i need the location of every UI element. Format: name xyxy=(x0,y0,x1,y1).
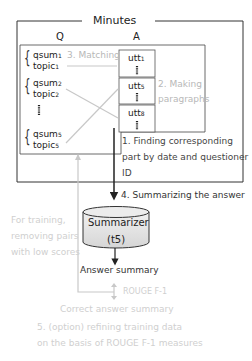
step-finding-line1: 1. Finding corresponding xyxy=(122,137,233,146)
summarizer-model: (t5) xyxy=(107,235,125,245)
answer-summary-label: Answer summary xyxy=(80,266,158,275)
utterance-5-label: utt5 xyxy=(128,82,145,91)
brace-icon: { xyxy=(24,78,30,95)
minutes-title: Minutes xyxy=(93,15,136,26)
rouge-label: ROUGE F-1 xyxy=(123,288,167,296)
training-note-line1: For training, xyxy=(11,216,66,225)
step-making-paragraphs-line2: paragraphs xyxy=(158,95,209,104)
training-note-line2: removing pairs xyxy=(11,232,79,241)
qsum-label: qsum1 xyxy=(33,51,62,60)
qsum-label: qsum5 xyxy=(33,130,62,139)
step-finding-line2: part by date and questioner xyxy=(122,153,248,162)
topic-label: topic5 xyxy=(33,141,59,150)
step-making-paragraphs-line1: 2. Making xyxy=(158,80,202,89)
qsum-label: qsum2 xyxy=(33,79,62,88)
step-matching-label: 3. Matching xyxy=(67,51,120,60)
step-summarizing-label: 4. Summarizing the answer xyxy=(121,191,245,200)
utterance-8-label: utt8 xyxy=(128,109,145,118)
column-a-header: A xyxy=(133,32,140,42)
column-q-header: Q xyxy=(56,32,64,42)
refining-note-line1: 5. (option) refining training data xyxy=(37,323,182,332)
correct-summary-label: Correct answer summary xyxy=(60,305,174,314)
topic-label: topic1 xyxy=(33,62,59,71)
brace-icon: { xyxy=(24,129,30,146)
training-note-line3: with low scores xyxy=(11,248,80,257)
step-finding-line3: ID xyxy=(122,169,132,178)
topic-label: topic2 xyxy=(33,90,59,99)
utterance-1-label: utt1 xyxy=(128,54,145,63)
summarizer-name: Summarizer xyxy=(88,218,149,228)
refining-note-line2: on the basis of ROUGE F-1 measures xyxy=(37,339,203,348)
matching-lines xyxy=(66,66,118,143)
diagram-canvas: Minutes Q A { qsum1 topic1 { qsum2 topic… xyxy=(0,0,252,361)
brace-icon: { xyxy=(24,50,30,67)
